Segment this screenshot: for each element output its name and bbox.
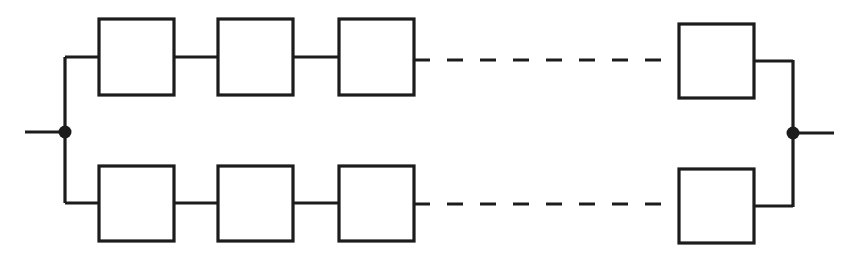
input-junction-node — [59, 126, 72, 139]
top-block-1[interactable] — [99, 19, 174, 95]
top-block-n[interactable] — [679, 24, 754, 98]
bottom-block-1[interactable] — [99, 166, 174, 241]
bottom-block-n[interactable] — [679, 169, 754, 243]
diagram-canvas — [0, 0, 854, 264]
output-junction-node — [787, 127, 800, 140]
top-block-3[interactable] — [339, 19, 414, 95]
top-block-2[interactable] — [218, 19, 293, 95]
bottom-block-2[interactable] — [218, 166, 293, 241]
bottom-block-3[interactable] — [339, 166, 414, 241]
reliability-block-diagram — [0, 0, 854, 264]
